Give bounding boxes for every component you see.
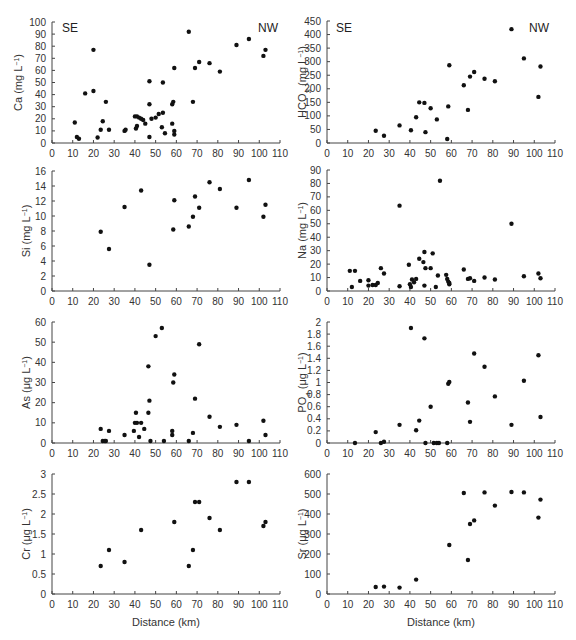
- y-tick-label: 60: [35, 317, 47, 328]
- panel-sr-scatter: 0100200300400500600010203040506070809010…: [296, 469, 563, 611]
- panel-as-scatter: 01020304050600102030405060708090100110As…: [20, 317, 288, 460]
- y-tick-label: 0.4: [307, 413, 321, 424]
- x-tick-label: 60: [446, 599, 458, 610]
- data-point: [509, 222, 513, 226]
- x-tick-label: 20: [363, 599, 375, 610]
- data-point: [414, 428, 418, 432]
- data-point: [397, 203, 401, 207]
- x-tick-label: 0: [49, 448, 55, 459]
- x-tick-label: 110: [547, 599, 563, 610]
- x-tick-label: 100: [251, 296, 268, 307]
- x-axis-title-right: Distance (km): [407, 616, 475, 628]
- y-tick-label: 20: [310, 259, 322, 270]
- data-point: [91, 48, 95, 52]
- data-point: [447, 63, 451, 67]
- x-tick-label: 10: [342, 599, 354, 610]
- data-point: [446, 104, 450, 108]
- data-point: [445, 137, 449, 141]
- data-point: [234, 423, 238, 427]
- data-point: [122, 205, 126, 209]
- x-tick-label: 60: [171, 448, 183, 459]
- data-point: [409, 326, 413, 330]
- data-point: [135, 124, 139, 128]
- x-tick-label: 100: [251, 148, 268, 159]
- data-point: [218, 528, 222, 532]
- x-tick-label: 0: [324, 296, 330, 307]
- y-tick-label: 50: [310, 218, 322, 229]
- y-tick-label: 40: [35, 357, 47, 368]
- data-point: [147, 263, 151, 267]
- data-point: [163, 131, 167, 135]
- data-point: [435, 117, 439, 121]
- x-tick-label: 90: [508, 448, 520, 459]
- data-point: [193, 194, 197, 198]
- x-tick-label: 20: [88, 599, 100, 610]
- y-tick-label: 1.2: [307, 365, 321, 376]
- data-point: [172, 198, 176, 202]
- panel-na-scatter: 0102030405060708090010203040506070809010…: [296, 165, 563, 308]
- x-tick-label: 50: [150, 296, 162, 307]
- data-point: [536, 271, 540, 275]
- data-point: [468, 74, 472, 78]
- x-tick-label: 80: [487, 448, 499, 459]
- data-point: [493, 277, 497, 281]
- data-point: [134, 411, 138, 415]
- y-tick-label: 8: [40, 226, 46, 237]
- data-point: [374, 585, 378, 589]
- y-tick-label: 2: [40, 271, 46, 282]
- data-point: [382, 133, 386, 137]
- data-point: [468, 420, 472, 424]
- data-point: [472, 351, 476, 355]
- y-tick-label: 40: [310, 232, 322, 243]
- data-point: [414, 115, 418, 119]
- x-tick-label: 30: [384, 599, 396, 610]
- data-point: [170, 121, 174, 125]
- data-point: [107, 127, 111, 131]
- y-tick-label: 20: [35, 397, 47, 408]
- data-point: [135, 421, 139, 425]
- data-point: [261, 524, 265, 528]
- data-point: [160, 125, 164, 129]
- x-tick-label: 100: [526, 599, 543, 610]
- data-point: [122, 560, 126, 564]
- data-point: [444, 273, 448, 277]
- x-tick-label: 10: [342, 148, 354, 159]
- data-point: [434, 285, 438, 289]
- data-point: [472, 518, 476, 522]
- data-point: [247, 439, 251, 443]
- data-point: [187, 564, 191, 568]
- y-tick-label: 70: [35, 53, 47, 64]
- data-point: [153, 115, 157, 119]
- data-point: [153, 334, 157, 338]
- data-point: [107, 548, 111, 552]
- data-point: [414, 277, 418, 281]
- x-tick-label: 110: [272, 448, 288, 459]
- x-tick-label: 60: [171, 599, 183, 610]
- data-point: [207, 61, 211, 65]
- x-tick-label: 90: [508, 148, 520, 159]
- y-tick-label: 2: [40, 509, 46, 520]
- data-point: [428, 106, 432, 110]
- data-point: [522, 490, 526, 494]
- data-point: [445, 441, 449, 445]
- data-point: [353, 269, 357, 273]
- x-tick-label: 50: [425, 296, 437, 307]
- data-point: [522, 378, 526, 382]
- x-tick-label: 80: [212, 599, 224, 610]
- data-point: [397, 284, 401, 288]
- x-tick-label: 20: [88, 148, 100, 159]
- data-point: [522, 56, 526, 60]
- x-tick-label: 0: [49, 148, 55, 159]
- x-tick-label: 10: [67, 599, 79, 610]
- data-point: [160, 326, 164, 330]
- data-point: [358, 279, 362, 283]
- y-tick-label: 0.2: [307, 425, 321, 436]
- data-point: [147, 102, 151, 106]
- x-tick-label: 0: [324, 148, 330, 159]
- x-tick-label: 70: [192, 148, 204, 159]
- data-point: [447, 543, 451, 547]
- data-point: [422, 336, 426, 340]
- data-point: [191, 100, 195, 104]
- data-point: [132, 429, 136, 433]
- data-point: [234, 480, 238, 484]
